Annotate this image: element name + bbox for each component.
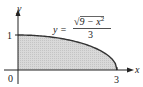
equation-denominator: 3 bbox=[88, 29, 93, 40]
area-under-curve-chart: y x 1 0 3 y = √9 − x2 3 bbox=[0, 0, 143, 87]
equation-lhs: y = bbox=[52, 24, 67, 35]
y-tick-label-1: 1 bbox=[7, 30, 12, 41]
y-axis-label: y bbox=[16, 3, 22, 14]
x-axis-label: x bbox=[134, 64, 140, 75]
x-tick-label-0: 0 bbox=[8, 73, 13, 84]
x-tick-label-3: 3 bbox=[114, 74, 119, 85]
equation-fraction: √9 − x2 3 bbox=[73, 15, 111, 40]
x-axis-arrow-icon bbox=[127, 68, 134, 73]
